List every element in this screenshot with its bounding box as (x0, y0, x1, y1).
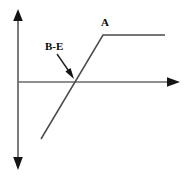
line-diagram-figure: A B-E (0, 0, 189, 176)
breakpoint-label-be: B-E (45, 41, 63, 52)
plateau-label-a: A (101, 17, 109, 28)
vertical-axis-down-arrowhead (13, 157, 23, 170)
diagram-canvas (0, 0, 189, 176)
horizontal-axis-right-arrowhead (167, 77, 180, 87)
b-e-pointer-arrowhead (65, 68, 74, 79)
vertical-axis-up-arrowhead (13, 9, 23, 21)
